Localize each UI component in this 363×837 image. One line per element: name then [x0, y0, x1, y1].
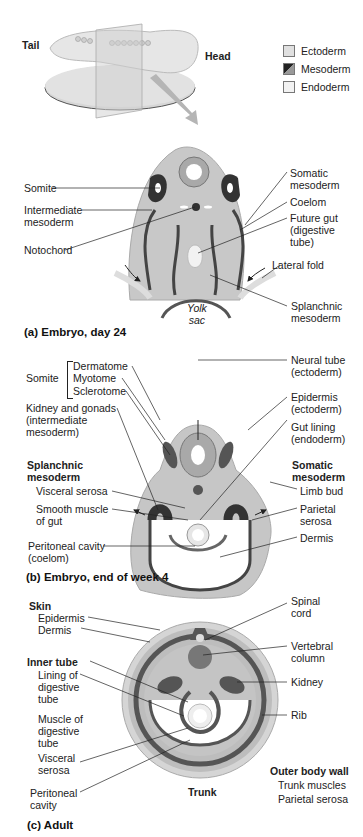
legend-label: Mesoderm — [301, 63, 351, 75]
label-future-gut: Future gut (digestive tube) — [290, 212, 338, 248]
tail-label: Tail — [22, 39, 39, 51]
label-dermis: Dermis — [300, 532, 333, 544]
caption-panel-b: (b) Embryo, end of week 4 — [26, 571, 169, 583]
label-somatic-mesoderm-b: Somatic mesoderm — [292, 459, 345, 483]
label-splanchnic-mesoderm-b: Splanchnic mesoderm — [27, 459, 83, 483]
label-parietal-serosa-c: Parietal serosa — [278, 793, 348, 805]
label-lateral-fold: Lateral fold — [272, 259, 324, 271]
label-spinal-cord: Spinal cord — [291, 595, 320, 619]
label-sclerotome: Sclerotome — [73, 385, 126, 397]
endoderm-swatch — [283, 81, 295, 93]
label-lining-digestive: Lining of digestive tube — [38, 669, 79, 705]
caption-panel-a: (a) Embryo, day 24 — [24, 326, 126, 338]
label-trunk: Trunk — [188, 786, 217, 798]
label-kidney-gonads: Kidney and gonads (intermediate mesoderm… — [26, 402, 116, 438]
label-epidermis: Epidermis (ectoderm) — [291, 391, 342, 415]
legend-item-ectoderm: Ectoderm — [283, 45, 346, 57]
label-peritoneal-cavity: Peritoneal cavity (coelom) — [28, 540, 105, 564]
legend-item-mesoderm: Mesoderm — [283, 63, 351, 75]
label-parietal-serosa: Parietal serosa — [300, 503, 336, 527]
legend-label: Endoderm — [301, 81, 349, 93]
panel-c-illustration — [122, 622, 278, 778]
label-yolk-sac: Yolk sac — [187, 302, 207, 326]
label-dermis-c: Dermis — [38, 624, 71, 636]
label-myotome: Myotome — [73, 372, 116, 384]
label-notochord: Notochord — [24, 244, 72, 256]
label-coelom: Coelom — [290, 196, 326, 208]
label-inner-tube: Inner tube — [27, 656, 78, 668]
caption-panel-c: (c) Adult — [27, 819, 73, 831]
label-rib: Rib — [291, 709, 307, 721]
label-somatic-mesoderm: Somatic mesoderm — [290, 167, 340, 191]
label-muscle-digestive: Muscle of digestive tube — [38, 713, 83, 749]
label-epidermis-c: Epidermis — [38, 612, 85, 624]
label-smooth-muscle: Smooth muscle of gut — [36, 503, 108, 527]
legend-label: Ectoderm — [301, 45, 346, 57]
label-gut-lining: Gut lining (endoderm) — [291, 421, 345, 445]
head-label: Head — [205, 50, 231, 62]
label-skin: Skin — [29, 600, 51, 612]
label-vertebral-column: Vertebral column — [291, 640, 333, 664]
label-visceral-serosa: Visceral serosa — [36, 485, 108, 497]
label-outer-body-wall: Outer body wall — [270, 765, 349, 777]
label-somite-b: Somite — [26, 372, 59, 384]
label-trunk-muscles: Trunk muscles — [278, 779, 346, 791]
label-kidney: Kidney — [291, 676, 323, 688]
ectoderm-swatch — [283, 45, 295, 57]
label-splanchnic-mesoderm: Splanchnic mesoderm — [291, 300, 342, 324]
label-peritoneal-cavity-c: Peritoneal cavity — [30, 787, 77, 811]
label-neural-tube: Neural tube (ectoderm) — [291, 354, 345, 378]
label-somite: Somite — [24, 182, 57, 194]
mesoderm-swatch — [283, 63, 295, 75]
embryo-3d-illustration — [45, 24, 198, 125]
label-visceral-serosa-c: Visceral serosa — [38, 752, 75, 776]
label-intermediate-mesoderm: Intermediate mesoderm — [24, 204, 82, 228]
label-dermatome: Dermatome — [73, 360, 128, 372]
legend-item-endoderm: Endoderm — [283, 81, 349, 93]
label-limb-bud: Limb bud — [300, 485, 343, 497]
